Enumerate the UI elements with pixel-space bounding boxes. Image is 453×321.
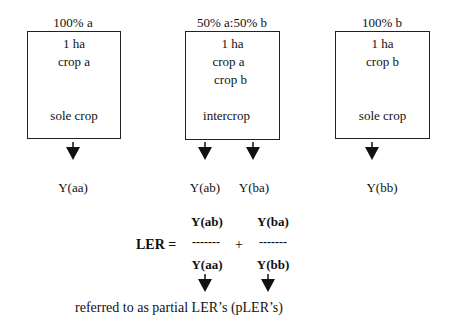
- yield-label-ab: Y(ab): [190, 181, 220, 195]
- caption: referred to as partial LER’s (pLER’s): [75, 300, 283, 315]
- crop-label-b: crop b: [336, 55, 429, 69]
- field-box-sole-crop-b: 1 ha crop b sole crop: [335, 31, 430, 139]
- arrow-down-icon: [198, 142, 212, 160]
- term1-fraction-bar: -------: [192, 236, 220, 248]
- plus-sign: +: [235, 238, 243, 252]
- term1-numerator: Y(ab): [191, 215, 223, 229]
- arrow-down-icon: [198, 274, 212, 292]
- proportion-label-intercrop: 50% a:50% b: [197, 16, 267, 29]
- area-label: 1 ha: [336, 37, 429, 51]
- yield-label-aa: Y(aa): [58, 181, 88, 195]
- crop-label-b: crop b: [184, 73, 277, 87]
- arrow-down-icon: [365, 142, 379, 160]
- field-box-sole-crop-a: 1 ha crop a sole crop: [27, 31, 121, 139]
- crop-label-a: crop a: [28, 55, 120, 69]
- yield-label-bb: Y(bb): [366, 181, 397, 195]
- area-label: 1 ha: [28, 37, 120, 51]
- area-label: 1 ha: [186, 37, 279, 51]
- field-box-intercrop: 1 ha crop a crop b intercrop: [185, 31, 280, 140]
- arrow-down-icon: [261, 274, 275, 292]
- term1-denominator: Y(aa): [191, 258, 222, 272]
- arrow-down-icon: [66, 142, 80, 160]
- yield-label-ba: Y(ba): [239, 181, 269, 195]
- system-type-label: intercrop: [180, 109, 273, 123]
- term2-fraction-bar: -------: [259, 236, 287, 248]
- system-type-label: sole crop: [28, 109, 120, 123]
- arrow-down-icon: [246, 142, 260, 160]
- proportion-label-sole-b: 100% b: [362, 16, 402, 29]
- proportion-label-sole-a: 100% a: [53, 16, 92, 29]
- term2-numerator: Y(ba): [257, 215, 289, 229]
- ler-label: LER =: [136, 238, 176, 252]
- crop-label-a: crop a: [182, 55, 275, 69]
- system-type-label: sole crop: [336, 109, 429, 123]
- term2-denominator: Y(bb): [257, 258, 290, 272]
